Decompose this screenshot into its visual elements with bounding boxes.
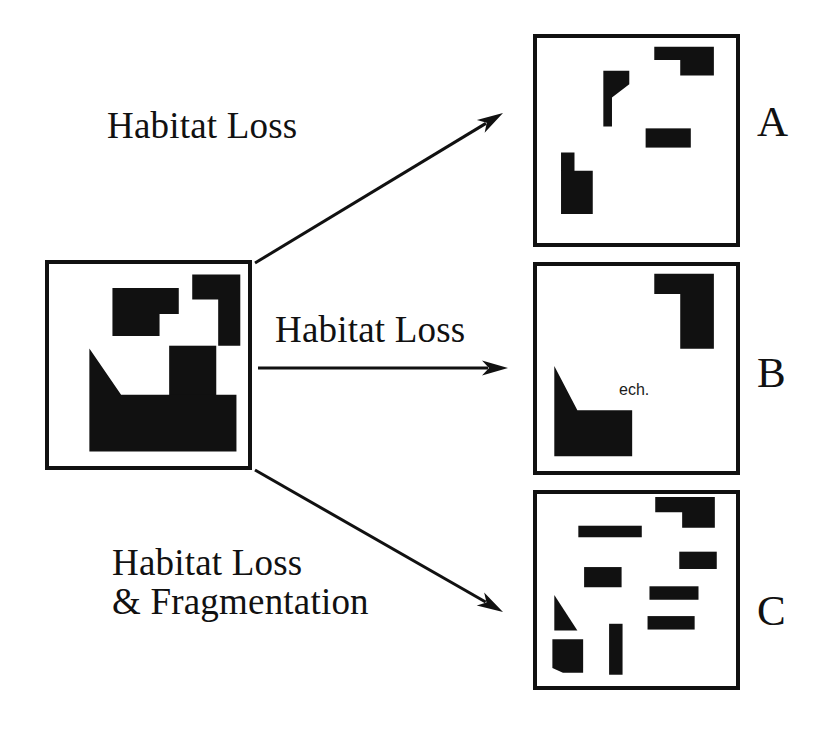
habitat-loss-diagram: Aech.BC Habitat LossHabitat LossHabitat … — [0, 0, 824, 740]
panel-c-habitat-loss-fragmentation — [533, 490, 740, 690]
label-line: Habitat Loss — [107, 106, 297, 145]
panel-b-habitat-loss: ech. — [533, 262, 740, 475]
panel-a-habitat-loss — [533, 34, 740, 247]
habitat-patch — [584, 567, 621, 587]
arrow-habitat-loss-top-label: Habitat Loss — [107, 106, 297, 145]
habitat-patch — [654, 47, 714, 76]
label-line: Habitat Loss — [112, 543, 369, 582]
arrow-habitat-loss-fragmentation-bottom-head — [477, 593, 503, 612]
habitat-patch — [654, 274, 714, 349]
habitat-patch — [578, 526, 641, 538]
panel-b-habitat-loss-patches — [537, 266, 736, 471]
original-landscape-panel — [45, 260, 252, 470]
habitat-patch — [554, 366, 632, 456]
panel-c-habitat-loss-fragmentation-patches — [537, 494, 736, 686]
habitat-patch — [603, 71, 629, 127]
habitat-patch — [169, 346, 216, 402]
panel-letter-c: C — [757, 588, 786, 634]
habitat-patch — [609, 624, 622, 675]
habitat-patch — [679, 552, 716, 569]
habitat-patch — [112, 288, 178, 336]
habitat-patch — [192, 275, 240, 346]
habitat-patch — [648, 616, 695, 629]
arrow-habitat-loss-middle-label: Habitat Loss — [275, 310, 465, 349]
habitat-patch — [655, 497, 715, 528]
panel-note-text: ech. — [619, 381, 649, 399]
habitat-patch — [646, 128, 691, 147]
arrow-habitat-loss-fragmentation-bottom-label: Habitat Loss& Fragmentation — [112, 543, 369, 621]
label-line: Habitat Loss — [275, 310, 465, 349]
habitat-patch — [649, 586, 698, 599]
label-line: & Fragmentation — [112, 582, 369, 621]
panel-letter-b: B — [757, 350, 786, 396]
original-landscape-patches — [49, 264, 248, 466]
habitat-patch — [554, 595, 577, 631]
arrow-habitat-loss-top-head — [477, 113, 503, 133]
arrow-habitat-loss-middle-head — [482, 361, 508, 376]
panel-a-habitat-loss-patches — [537, 38, 736, 243]
habitat-patch — [561, 152, 593, 214]
habitat-patch — [552, 639, 583, 673]
panel-letter-a: A — [757, 99, 788, 145]
